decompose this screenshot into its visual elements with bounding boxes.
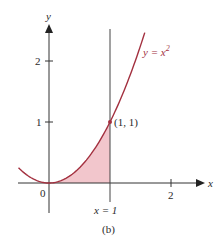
y-tick-label-1: 1 — [36, 116, 42, 128]
y-axis-arrow-icon — [45, 24, 53, 33]
point-annotation: (1, 1) — [114, 116, 138, 129]
origin-label: 0 — [40, 187, 46, 199]
y-tick-label-2: 2 — [35, 55, 41, 67]
figure-plot: x y 2 1 2 0 x = 1 y = x2 (1, 1) (b) — [0, 0, 218, 245]
y-axis-label: y — [45, 10, 51, 22]
point-marker-1-1 — [108, 120, 112, 124]
x-tick-label-2: 2 — [168, 189, 174, 201]
vertical-line-label: x = 1 — [93, 204, 117, 216]
curve-label: y = x2 — [142, 44, 170, 58]
shaded-area-region — [49, 122, 110, 183]
figure-caption: (b) — [102, 223, 115, 236]
x-axis-arrow-icon — [196, 179, 205, 187]
x-axis-label: x — [207, 177, 213, 189]
